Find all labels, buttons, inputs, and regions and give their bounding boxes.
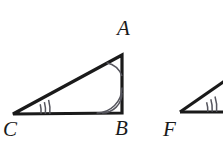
vertex-label-c: C: [3, 119, 17, 140]
angle-c-arc-3: [49, 100, 50, 114]
triangle-abc-outline: [13, 55, 122, 114]
angle-mark-a: [107, 63, 122, 76]
triangle-abc: [13, 55, 122, 114]
angle-mark-c: [40, 100, 50, 114]
vertex-label-b: B: [115, 118, 128, 139]
angle-f-arc-3: [215, 96, 217, 111]
angle-b-arc-2: [97, 88, 122, 114]
angle-b-arc-1: [102, 93, 122, 113]
angle-mark-b: [97, 88, 122, 114]
vertex-label-f: F: [163, 119, 176, 140]
figure-canvas: [0, 0, 223, 145]
geometry-figure: A B C F: [0, 0, 223, 145]
angle-f-arc-2: [211, 99, 213, 111]
angle-a-arc-1: [107, 63, 122, 76]
vertex-label-a: A: [117, 18, 130, 39]
angle-c-arc-1: [40, 104, 41, 113]
angle-c-arc-2: [44, 102, 45, 114]
angle-mark-f: [207, 96, 217, 111]
angle-f-arc-1: [207, 102, 208, 112]
